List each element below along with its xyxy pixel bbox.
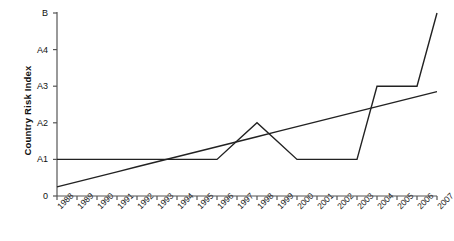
country-risk-index-chart: Country Risk Index 0A1A2A3A4B 1988198919… <box>0 0 454 241</box>
plot-area <box>0 0 454 241</box>
data-series-layer <box>57 13 437 187</box>
series-line-linear-trend <box>57 92 437 187</box>
series-line-risk-index <box>57 13 437 159</box>
